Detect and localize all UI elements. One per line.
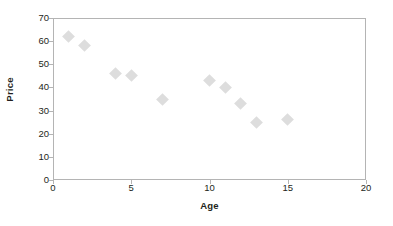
x-tick-label: 5 bbox=[116, 183, 146, 193]
data-point-marker bbox=[281, 113, 294, 126]
data-point-marker bbox=[125, 69, 138, 82]
y-tick-label: 70 bbox=[23, 13, 49, 23]
data-point-marker bbox=[109, 67, 122, 80]
x-axis-ticks: 05101520 bbox=[53, 183, 366, 197]
y-axis-title: Price bbox=[4, 60, 15, 120]
data-point-marker bbox=[234, 97, 247, 110]
data-point-marker bbox=[203, 74, 216, 87]
y-tick-label: 40 bbox=[23, 83, 49, 93]
x-tick-label: 0 bbox=[38, 183, 68, 193]
x-tick-label: 15 bbox=[273, 183, 303, 193]
data-point-marker bbox=[62, 30, 75, 43]
x-tick-label: 10 bbox=[195, 183, 225, 193]
y-tick-label: 20 bbox=[23, 129, 49, 139]
data-point-marker bbox=[250, 116, 263, 129]
y-tick-label: 30 bbox=[23, 106, 49, 116]
y-axis-ticks: 010203040506070 bbox=[19, 18, 49, 180]
y-tick-label: 10 bbox=[23, 152, 49, 162]
x-tick-label: 20 bbox=[351, 183, 381, 193]
data-point-marker bbox=[219, 81, 232, 94]
y-tick-label: 50 bbox=[23, 60, 49, 70]
x-tick-mark bbox=[366, 180, 367, 184]
data-point-marker bbox=[156, 93, 169, 106]
data-point-marker bbox=[78, 39, 91, 52]
plot-area bbox=[53, 18, 366, 180]
x-axis-title: Age bbox=[53, 200, 366, 211]
scatter-chart: 010203040506070 05101520 Price Age bbox=[0, 0, 393, 226]
x-tick-mark bbox=[288, 180, 289, 184]
x-tick-mark bbox=[131, 180, 132, 184]
y-tick-label: 60 bbox=[23, 36, 49, 46]
x-tick-mark bbox=[53, 180, 54, 184]
x-tick-mark bbox=[210, 180, 211, 184]
